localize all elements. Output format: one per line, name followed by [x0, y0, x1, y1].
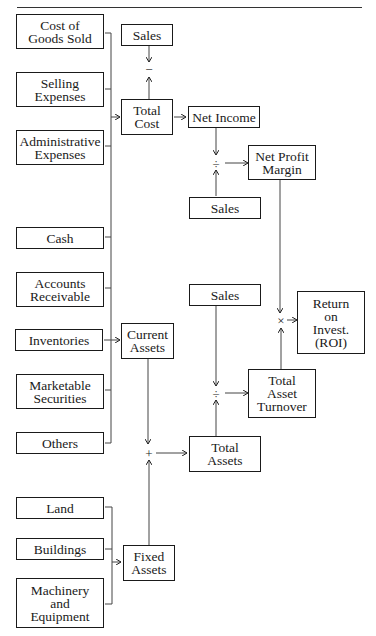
- node-cash: Cash: [16, 227, 104, 249]
- node-fixed-assets: Fixed Assets: [123, 545, 175, 581]
- node-cost-of-goods-sold: Cost of Goods Sold: [16, 14, 104, 49]
- multiply-operator: ×: [275, 314, 287, 327]
- node-land: Land: [16, 497, 104, 519]
- subtract-operator: −: [143, 63, 155, 76]
- node-sales-top: Sales: [121, 24, 173, 46]
- divide-operator-tat: ÷: [210, 387, 222, 400]
- node-selling-expenses: Selling Expenses: [16, 72, 104, 107]
- node-buildings: Buildings: [16, 538, 104, 560]
- node-inventories: Inventories: [15, 329, 103, 351]
- node-administrative-expenses: Administrative Expenses: [16, 130, 104, 165]
- node-machinery-and-equipment: Machinery and Equipment: [16, 578, 104, 628]
- node-others: Others: [16, 432, 104, 454]
- node-sales-mid: Sales: [189, 197, 261, 219]
- node-marketable-securities: Marketable Securities: [16, 374, 104, 409]
- divide-operator-npm: ÷: [210, 157, 222, 170]
- node-net-income: Net Income: [188, 106, 260, 128]
- add-operator: +: [143, 447, 155, 460]
- node-net-profit-margin: Net Profit Margin: [248, 145, 316, 180]
- node-return-on-investment: Return on Invest. (ROI): [297, 291, 365, 354]
- node-total-assets: Total Assets: [189, 436, 261, 472]
- node-current-assets: Current Assets: [121, 323, 174, 359]
- node-accounts-receivable: Accounts Receivable: [16, 272, 104, 307]
- node-total-cost: Total Cost: [121, 99, 173, 135]
- node-sales-lower: Sales: [189, 284, 261, 306]
- node-total-asset-turnover: Total Asset Turnover: [248, 369, 316, 418]
